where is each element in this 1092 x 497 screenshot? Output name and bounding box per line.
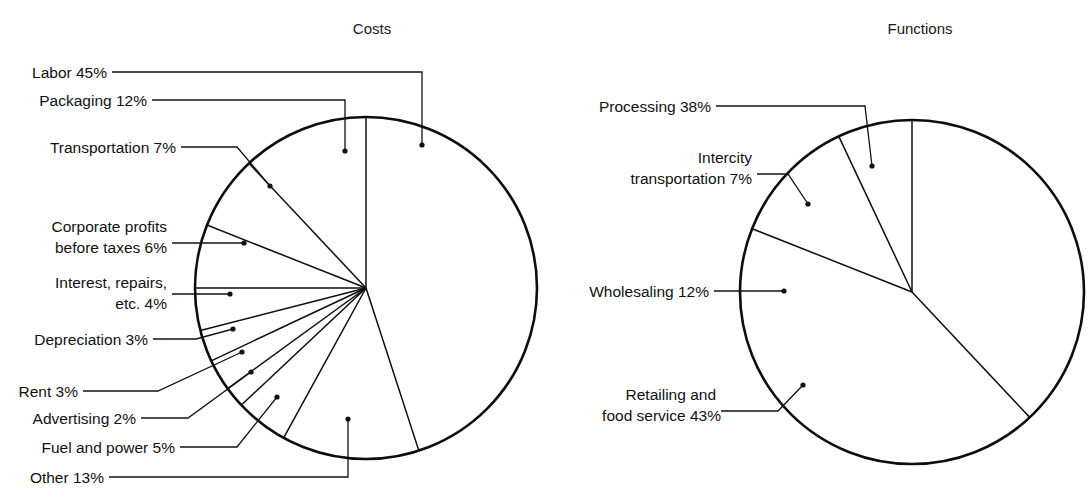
pie-spoke [207,225,366,288]
slice-label-labor: Labor 45% [32,64,107,81]
pie-spoke [366,288,419,451]
leader-line-retailing [721,385,803,411]
slice-label-depreciation: Depreciation 3% [34,331,148,348]
leader-line-labor [112,72,422,145]
pie-spoke [284,288,366,438]
leader-line-advertising [141,372,251,418]
leader-dot-rent [239,349,244,354]
pie-spoke [752,229,912,292]
leader-dot-advertising [248,369,253,374]
leader-dot-corporate-profits [241,240,246,245]
slice-label-wholesaling: Wholesaling 12% [589,283,709,300]
pie-spoke [241,288,366,405]
leader-dot-depreciation [230,326,235,331]
leader-dot-other [345,416,350,421]
slice-label-fuel-and-power: Fuel and power 5% [41,439,175,456]
leader-line-transportation [181,147,270,186]
slice-label-corporate-profits: Corporate profitsbefore taxes 6% [52,218,168,256]
leader-line-depreciation [153,329,233,339]
slice-label-intercity-transportation: Intercitytransportation 7% [631,149,753,187]
leader-dot-fuel-and-power [274,394,279,399]
leader-dot-interest-repairs [227,291,232,296]
slice-label-advertising: Advertising 2% [33,410,137,427]
leader-dot-packaging [342,148,347,153]
leader-dot-retailing [800,382,805,387]
slice-label-other: Other 13% [30,469,104,486]
slice-label-rent: Rent 3% [19,383,79,400]
leader-dot-transportation [267,183,272,188]
pie-spoke [839,136,912,292]
slice-label-packaging: Packaging 12% [39,92,147,109]
chart-costs: CostsLabor 45%Packaging 12%Transportatio… [19,20,537,486]
pie-spoke [211,288,366,361]
chart-functions: FunctionsProcessing 38%Intercitytranspor… [589,20,1084,464]
leader-dot-wholesaling [781,288,786,293]
leader-dot-labor [419,142,424,147]
leader-dot-processing [869,163,874,168]
slice-label-retailing: Retailing andfood service 43% [602,386,721,424]
slice-label-interest-repairs: Interest, repairs,etc. 4% [55,274,167,312]
pie-chart-figure: CostsLabor 45%Packaging 12%Transportatio… [0,0,1092,497]
chart-title-functions: Functions [887,20,952,37]
leader-line-fuel-and-power [180,397,277,447]
pie-spoke [912,292,1030,417]
chart-title-costs: Costs [353,20,391,37]
slice-label-processing: Processing 38% [599,98,711,115]
leader-dot-intercity-transportation [805,201,810,206]
slice-label-transportation: Transportation 7% [50,139,176,156]
